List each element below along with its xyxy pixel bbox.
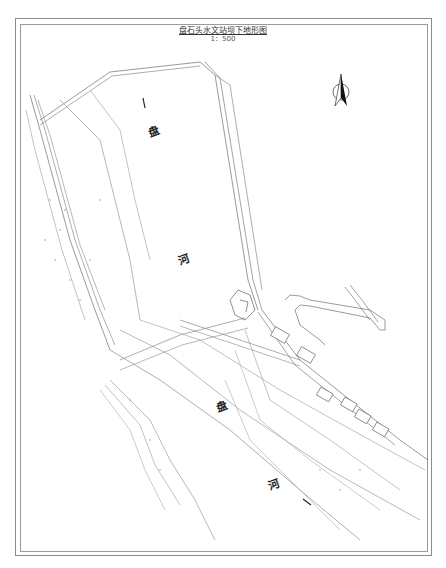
top-road-line (40, 62, 200, 120)
dam-structure (230, 290, 255, 320)
flow-arrow-upper (143, 98, 145, 108)
building-group (271, 327, 389, 437)
north-arrow-icon (333, 74, 349, 106)
spot-heights (44, 199, 360, 490)
topographic-map-canvas (0, 0, 446, 568)
right-bank-road-lower (262, 310, 428, 460)
right-bank-road (200, 62, 258, 310)
lower-left-terrace (110, 380, 215, 540)
